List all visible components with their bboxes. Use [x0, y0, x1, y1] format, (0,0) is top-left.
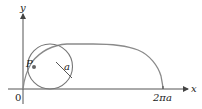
x-tick-label: 2πa — [152, 92, 172, 103]
y-axis-label: y — [19, 2, 26, 13]
x-axis-label: x — [191, 83, 197, 94]
radius-label: a — [64, 61, 70, 72]
cycloid-curve — [23, 44, 163, 89]
cycloid-diagram: y x 0 P a 2πa — [0, 0, 202, 109]
origin-label: 0 — [15, 92, 21, 103]
point-p-label: P — [25, 58, 33, 69]
